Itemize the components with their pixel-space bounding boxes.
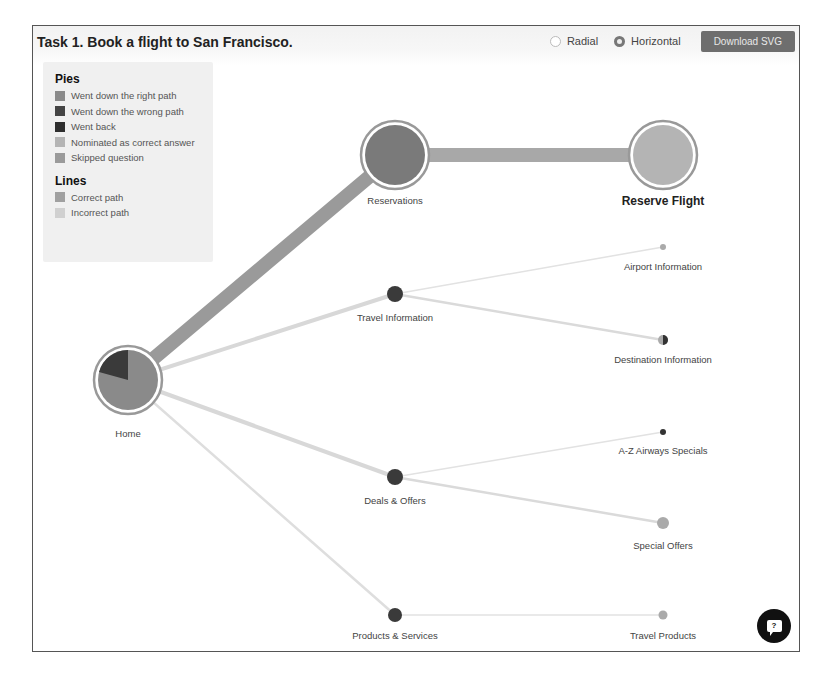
node-destination-information[interactable]: Destination Information (614, 335, 712, 365)
node-label: Deals & Offers (364, 495, 426, 506)
node-airport-information[interactable]: Airport Information (624, 244, 702, 272)
node-label: Reserve Flight (622, 194, 705, 208)
node-products-services[interactable]: Products & Services (352, 608, 438, 641)
node-label: Special Offers (633, 540, 693, 551)
node-reservations[interactable]: Reservations (361, 121, 429, 206)
link-incorrect (128, 380, 395, 477)
node-label: Reservations (367, 195, 423, 206)
node-label: Travel Information (357, 312, 433, 323)
link-incorrect (395, 477, 663, 523)
node-home[interactable]: Home (94, 346, 162, 439)
link-correct (128, 155, 395, 380)
node-label: Home (115, 428, 140, 439)
link-incorrect (128, 380, 395, 615)
node-az-airways-specials[interactable]: A-Z Airways Specials (618, 429, 707, 456)
node-label: Airport Information (624, 261, 702, 272)
node-deals-offers[interactable]: Deals & Offers (364, 469, 426, 506)
node-label: Products & Services (352, 630, 438, 641)
node-label: Destination Information (614, 354, 712, 365)
node-special-offers[interactable]: Special Offers (633, 517, 693, 551)
node-label: Travel Products (630, 630, 696, 641)
pie-right-path (365, 125, 425, 185)
pie-nominated (633, 125, 693, 185)
link-incorrect (395, 247, 663, 294)
tree-links (128, 155, 663, 615)
link-incorrect (128, 294, 395, 380)
node-reserve-flight[interactable]: Reserve Flight (622, 121, 705, 208)
node-label: A-Z Airways Specials (618, 445, 707, 456)
link-incorrect (395, 294, 663, 340)
pietree-diagram: Home Reservations Reserve Flight Travel … (0, 0, 834, 680)
